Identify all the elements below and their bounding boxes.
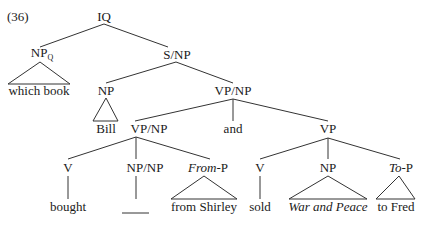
node-np-object: NP [320,161,337,175]
example-number: (36) [7,10,29,24]
leaf-war-and-peace: War and Peace [289,200,368,214]
leaf-to-fred: to Fred [377,200,414,214]
node-iq: IQ [97,10,111,24]
node-np-np: NP/NP [127,161,164,175]
node-to-p: To-P [389,161,413,175]
node-np-q-subscript: Q [47,53,53,62]
node-vp-np-top: VP/NP [215,84,252,98]
leaf-from-shirley: from Shirley [171,200,237,214]
node-from-p: From-P [188,161,228,175]
leaf-bill: Bill [96,122,116,136]
node-to-p-italic: To [389,160,402,175]
node-from-p-italic: From [188,160,216,175]
node-vp-np-left: VP/NP [131,122,168,136]
node-and: and [224,122,243,136]
node-s-np: S/NP [163,48,190,62]
leaf-which-book: which book [8,84,69,98]
leaf-bought: bought [50,200,86,214]
node-np-q: NPQ [31,46,53,65]
node-from-p-suffix: -P [216,160,228,175]
node-to-p-suffix: -P [401,160,413,175]
tree-branches [0,0,425,225]
node-np-q-label: NP [31,45,48,60]
node-np-subject: NP [98,84,115,98]
leaf-sold: sold [249,200,271,214]
node-v-sold: V [255,161,264,175]
node-v-bought: V [63,161,72,175]
node-vp: VP [320,122,337,136]
